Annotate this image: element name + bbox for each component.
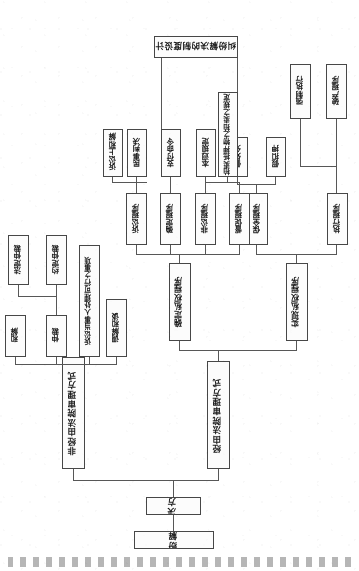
edge-confirm-c2 xyxy=(205,245,206,255)
node-root[interactable]: 民事纠纷解决方式 xyxy=(134,531,214,549)
node-statutory-arb[interactable]: 法定仲裁 xyxy=(8,235,29,285)
scan-header-smudge xyxy=(8,557,351,567)
edge-exec-l xyxy=(336,119,337,167)
edge-realize-right2 xyxy=(256,245,257,255)
node-payment-order-label: 支付命令 xyxy=(167,138,175,168)
node-settle[interactable]: 确定程序 xyxy=(160,193,181,245)
edge-bus-to-noncourt xyxy=(73,469,74,481)
node-party-handle[interactable]: 诉讼当事人处理可行之事项 xyxy=(79,245,100,357)
node-execution[interactable]: 执行程序 xyxy=(327,193,348,245)
edge-root-to-level1 xyxy=(173,515,174,531)
edge-bottom-stem-b xyxy=(161,58,162,129)
node-compulsory-exec[interactable]: 强制执行 xyxy=(290,64,311,119)
edge-courtsettle-stem xyxy=(112,177,113,183)
node-reconcile-label: 和解 xyxy=(12,329,20,344)
node-civil-judgment-label: 民事判决 xyxy=(133,138,141,168)
edge-arb-l xyxy=(56,285,57,297)
node-litigation[interactable]: 诉讼程序 xyxy=(126,193,147,245)
node-bankruptcy-label: 破产程序 xyxy=(333,77,341,107)
node-bottom-note-label: 纠纷解决的制度设计 xyxy=(156,41,237,53)
node-reconcile[interactable]: 和解 xyxy=(5,315,26,357)
edge-noncourt-n3 xyxy=(56,357,57,365)
edge-court-stem xyxy=(218,351,219,361)
scanned-page: 民事纠纷解决方式 解决方式 经由法院审理方式 非经由法院审理方式 实现私权程序 … xyxy=(0,0,359,571)
edge-realize-bus xyxy=(257,254,337,255)
edge-bottom-stem-a xyxy=(237,58,238,92)
edge-judgment-stem xyxy=(136,177,137,183)
node-provisional-attach-label: 假扣押 xyxy=(272,146,280,168)
edge-preserve-bus xyxy=(238,184,276,185)
node-noncontentious-label: 非讼程序 xyxy=(202,204,210,234)
node-auction-rule[interactable]: 拍卖抵押物之拍卖之规定 xyxy=(218,92,238,177)
node-preservation[interactable]: 保全程序 xyxy=(247,193,268,245)
edge-confirm-c4 xyxy=(136,245,137,255)
edge-noncourt-n4 xyxy=(15,357,16,365)
edge-preserve-l xyxy=(275,177,276,185)
flowchart-canvas: 民事纠纷解决方式 解决方式 经由法院审理方式 非经由法院审理方式 实现私权程序 … xyxy=(0,0,359,571)
node-preservation-label: 保全程序 xyxy=(254,204,262,234)
node-statutory-arb-label: 法定仲裁 xyxy=(15,245,23,275)
node-noncourt-branch[interactable]: 非经由法院审理方式 xyxy=(62,357,85,469)
edge-confirm-bus xyxy=(137,254,240,255)
node-bottom-note[interactable]: 纠纷解决的制度设计 xyxy=(154,36,238,58)
edge-confirm-c3 xyxy=(170,245,171,255)
edge-realize-left xyxy=(336,245,337,255)
edge-urge-down xyxy=(239,183,240,193)
node-court-settle[interactable]: 诉讼上和解 xyxy=(103,129,123,177)
node-urge[interactable]: 督促程序 xyxy=(229,193,250,245)
node-arbitration-label: 仲裁 xyxy=(53,329,61,344)
edge-lower-bus-b xyxy=(113,182,147,183)
node-agreed-arb[interactable]: 约定仲裁 xyxy=(46,235,67,285)
edge-court-bus-right xyxy=(179,341,180,351)
node-arbitration[interactable]: 仲裁 xyxy=(46,315,67,357)
node-confirm-right[interactable]: 确定私权程序 xyxy=(169,263,191,341)
edge-settle-down xyxy=(170,183,171,193)
node-level1[interactable]: 解决方式 xyxy=(146,497,201,515)
node-noncontentious[interactable]: 非讼程序 xyxy=(195,193,216,245)
edge-lower-bus-a xyxy=(206,182,240,183)
edge-confirm-stem xyxy=(179,255,180,263)
node-civil-judgment[interactable]: 民事判决 xyxy=(127,129,147,177)
edge-court-bus xyxy=(180,350,297,351)
node-provisional-attach[interactable]: 假扣押 xyxy=(266,137,286,177)
node-mediation-label: 调解和谈 xyxy=(113,313,121,343)
node-root-label: 民事纠纷解决方式 xyxy=(170,531,179,549)
node-realize-right[interactable]: 实现私权程序 xyxy=(286,263,308,341)
edge-noncourt-bus xyxy=(16,364,117,365)
edge-exec-bus xyxy=(301,166,337,167)
edge-exec-r xyxy=(300,119,301,167)
edge-confirm-c1 xyxy=(239,245,240,255)
node-level1-label: 解决方式 xyxy=(169,497,178,515)
edge-realize-stem xyxy=(296,255,297,263)
node-realize-right-label: 实现私权程序 xyxy=(293,277,301,327)
node-general-rule-label: 本迥规定 xyxy=(202,138,210,168)
edge-exec-stem xyxy=(336,167,337,193)
node-mediation[interactable]: 调解和谈 xyxy=(106,299,127,357)
node-general-rule[interactable]: 本迥规定 xyxy=(196,129,216,177)
edge-noncourt-n1 xyxy=(116,357,117,365)
node-bankruptcy[interactable]: 破产程序 xyxy=(326,64,347,119)
node-execution-label: 执行程序 xyxy=(334,204,342,234)
edge-general-stem xyxy=(205,177,206,183)
edge-preserve-stem xyxy=(256,185,257,193)
edge-litig-down xyxy=(136,183,137,193)
node-auction-rule-label: 拍卖抵押物之拍卖之规定 xyxy=(225,94,232,175)
node-party-handle-label: 诉讼当事人处理可行之事项 xyxy=(86,257,93,346)
edge-preserve-r xyxy=(237,177,238,185)
node-noncourt-branch-label: 非经由法院审理方式 xyxy=(69,371,78,456)
node-court-branch-label: 经由法院审理方式 xyxy=(214,377,223,452)
edge-auction-stem xyxy=(227,177,228,183)
node-confirm-right-label: 确定私权程序 xyxy=(176,277,184,327)
node-litigation-label: 诉讼程序 xyxy=(133,204,141,234)
edge-level1-stem xyxy=(173,481,174,497)
node-agreed-arb-label: 约定仲裁 xyxy=(53,245,61,275)
edge-noncont-down xyxy=(205,183,206,193)
edge-noncourt-n2 xyxy=(89,357,90,365)
node-payment-order[interactable]: 支付命令 xyxy=(161,129,181,177)
node-settle-label: 确定程序 xyxy=(167,204,175,234)
edge-bus-to-court xyxy=(218,469,219,481)
node-court-branch[interactable]: 经由法院审理方式 xyxy=(207,361,230,469)
edge-payment-stem xyxy=(170,177,171,183)
node-court-settle-label: 诉讼上和解 xyxy=(109,135,117,172)
edge-arb-bus xyxy=(19,296,57,297)
